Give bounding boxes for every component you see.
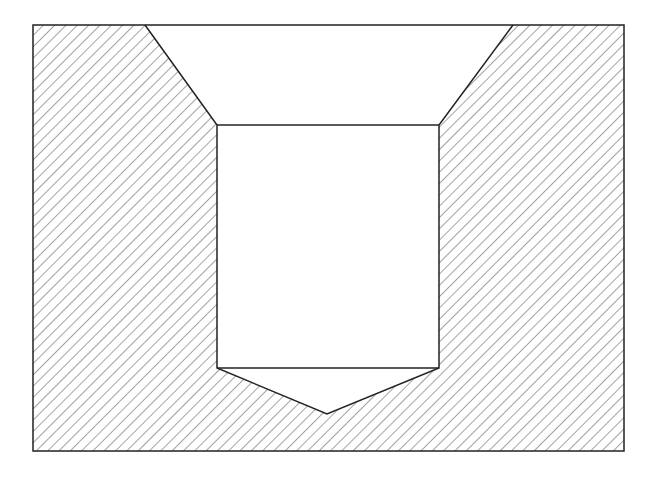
section-drawing: [0, 0, 655, 477]
hatched-material: [33, 25, 624, 451]
